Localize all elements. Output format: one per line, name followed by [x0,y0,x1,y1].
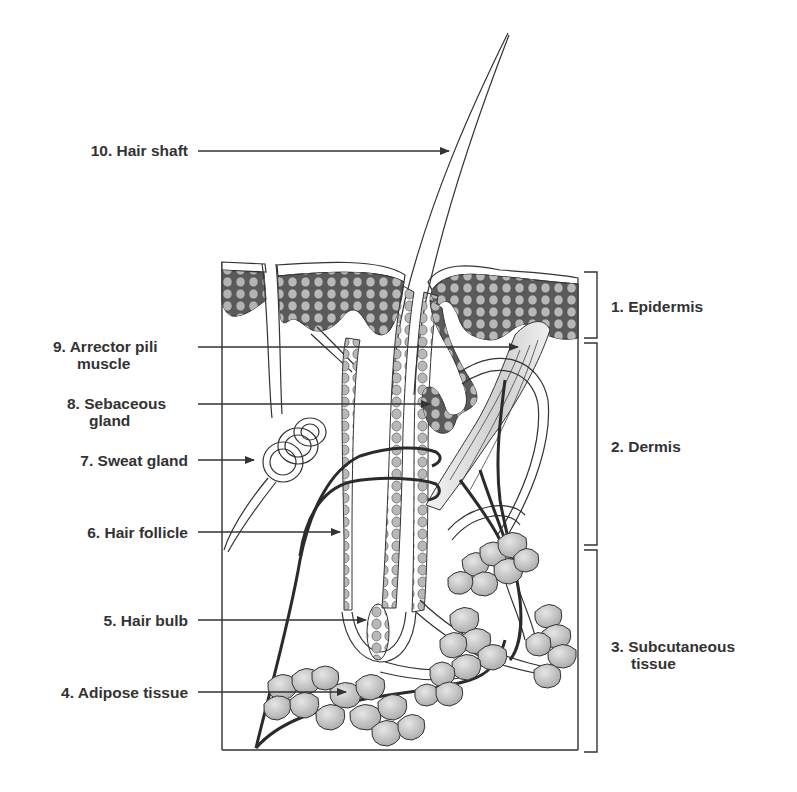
label-text-continued: muscle [53,355,158,372]
label-sweat-gland: 7. Sweat gland [80,452,188,469]
label-text: 10. Hair shaft [91,142,188,159]
layer-brackets [584,272,597,752]
label-subcutaneous-tissue: 3. Subcutaneous tissue [611,638,735,672]
label-text: 4. Adipose tissue [61,684,188,701]
label-hair-follicle: 6. Hair follicle [87,524,188,541]
label-sebaceous-gland: 8. Sebaceous gland [67,395,166,429]
skin-diagram: 10. Hair shaft 9. Arrector pili muscle 8… [0,0,797,792]
label-text: 6. Hair follicle [87,524,188,541]
label-arrector-pili-muscle: 9. Arrector pili muscle [53,338,158,372]
label-text: 5. Hair bulb [104,612,188,629]
label-text: 3. Subcutaneous [611,638,735,655]
label-epidermis: 1. Epidermis [611,298,703,315]
label-text: 1. Epidermis [611,298,703,315]
bracket-subcutaneous [584,550,597,752]
label-text: 2. Dermis [611,438,681,455]
label-dermis: 2. Dermis [611,438,681,455]
label-text-continued: tissue [611,655,735,672]
label-text: 8. Sebaceous [67,395,166,412]
label-adipose-tissue: 4. Adipose tissue [61,684,188,701]
label-text-continued: gland [67,412,166,429]
bracket-dermis [584,343,597,545]
hair-follicle-drawing [342,286,438,662]
label-text: 9. Arrector pili [53,338,158,355]
label-hair-shaft: 10. Hair shaft [91,142,188,159]
label-hair-bulb: 5. Hair bulb [104,612,188,629]
label-text: 7. Sweat gland [80,452,188,469]
bracket-epidermis [584,272,597,338]
